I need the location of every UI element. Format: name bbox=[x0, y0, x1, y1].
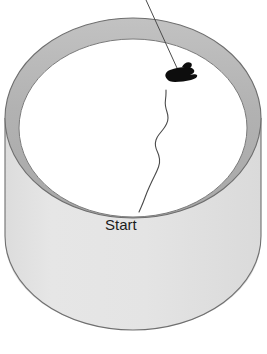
figure-container: Start bbox=[0, 0, 267, 354]
start-label: Start bbox=[105, 216, 138, 233]
arena-floor bbox=[19, 39, 247, 217]
cylinder-arena-diagram: Start bbox=[0, 0, 267, 354]
